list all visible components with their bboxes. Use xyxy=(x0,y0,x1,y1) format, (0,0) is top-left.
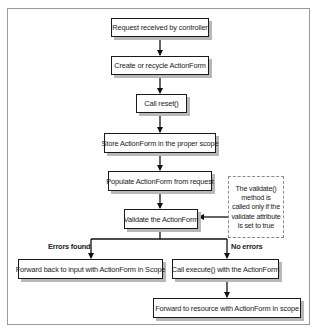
node-call-execute: Call execute() with the ActionForm xyxy=(172,259,279,279)
connector-lines xyxy=(0,0,317,333)
note-line: is set to true xyxy=(231,221,280,230)
node-validate-actionform: Validate the ActionForm xyxy=(124,209,198,229)
note-line: validate attribute xyxy=(231,212,280,221)
node-label: Populate ActionForm from request xyxy=(106,177,213,186)
validate-note: The validate() method is called only if … xyxy=(228,176,284,238)
no-errors-label: No errors xyxy=(231,242,262,251)
node-populate-actionform: Populate ActionForm from request xyxy=(108,171,212,191)
node-label: Store ActionForm in the proper scope xyxy=(101,139,218,148)
node-label: Create or recycle ActionForm xyxy=(114,61,206,70)
node-label: Forward to resource with ActionForm in s… xyxy=(155,304,299,313)
node-label: Request received by controller xyxy=(112,23,207,32)
node-label: Call reset() xyxy=(144,99,178,108)
note-line: called only if the xyxy=(231,202,280,211)
node-call-reset: Call reset() xyxy=(136,94,187,113)
node-forward-back-input: Forward back to input with ActionForm in… xyxy=(18,259,163,279)
node-create-actionform: Create or recycle ActionForm xyxy=(111,56,209,75)
node-label: Forward back to input with ActionForm in… xyxy=(16,265,166,274)
node-forward-resource: Forward to resource with ActionForm in s… xyxy=(153,298,301,318)
node-label: Validate the ActionForm xyxy=(124,215,198,224)
node-label: Call execute() with the ActionForm xyxy=(172,265,279,274)
node-store-actionform: Store ActionForm in the proper scope xyxy=(104,133,216,153)
errors-found-label: Errors found xyxy=(48,242,90,251)
note-line: The validate() xyxy=(231,184,280,193)
node-request-received: Request received by controller xyxy=(111,18,209,37)
note-line: method is xyxy=(231,193,280,202)
